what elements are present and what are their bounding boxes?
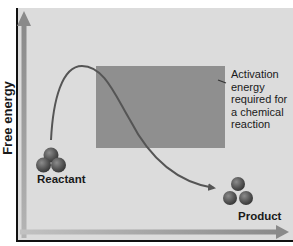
- reactant-label: Reactant: [37, 173, 86, 185]
- x-axis-arrow: [20, 225, 289, 239]
- reactant-molecule-icon: [36, 148, 66, 173]
- product-label: Product: [238, 210, 281, 222]
- y-axis-arrow: [17, 11, 31, 238]
- product-molecule-icon: [223, 177, 253, 205]
- activation-energy-annotation: Activation energy required for a chemica…: [231, 68, 293, 131]
- y-axis-label: Free energy: [0, 78, 16, 158]
- activation-energy-band: [96, 66, 225, 148]
